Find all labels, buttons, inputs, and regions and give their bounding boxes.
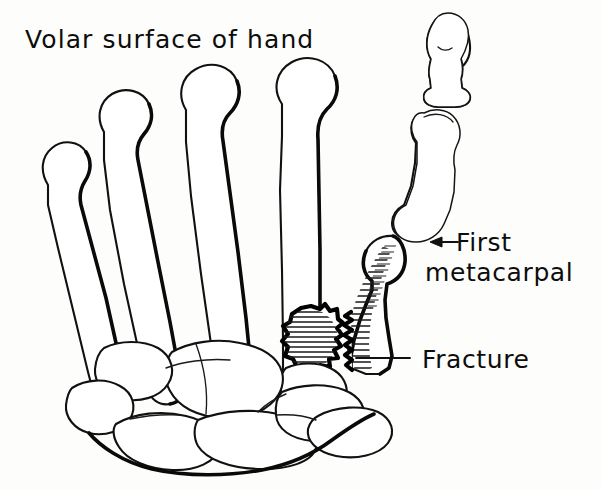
illustration-figure: Volar surface of hand First metacarpal F… — [0, 0, 601, 490]
figure-title: Volar surface of hand — [25, 25, 314, 54]
hand-skeleton-illustration: Volar surface of hand First metacarpal F… — [0, 0, 601, 490]
label-fracture: Fracture — [422, 345, 529, 374]
thumb-distal-phalanx — [424, 13, 470, 107]
label-first-metacarpal-line2: metacarpal — [425, 258, 573, 287]
label-first-metacarpal-line1: First — [456, 228, 512, 257]
